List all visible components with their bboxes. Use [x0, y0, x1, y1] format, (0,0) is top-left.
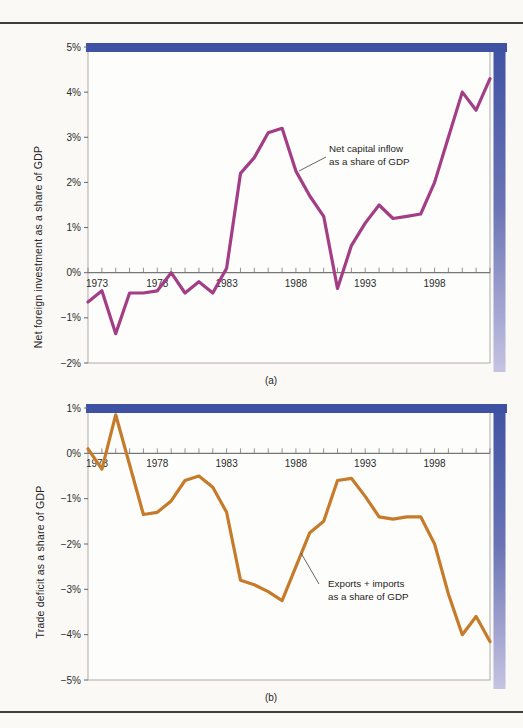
chart-a: 5%4%3%2%1%0%−1%−2%1973197819831988199319…	[61, 42, 507, 373]
chart-b: 1%0%−1%−2%−3%−4%−5%197319781983198819931…	[61, 403, 507, 690]
chart-a-caption: (a)	[265, 375, 277, 386]
chart-a-annotation-line2: as a share of GDP	[329, 156, 410, 169]
chart-b-caption: (b)	[265, 692, 277, 703]
chart-b-xtick-label: 1983	[215, 458, 238, 469]
chart-a-ytick-label: 4%	[67, 87, 82, 98]
chart-b-xtick-label: 1988	[285, 458, 308, 469]
chart-a-plot-area	[88, 47, 490, 363]
chart-b-shadow-band-top	[86, 404, 507, 413]
chart-a-xtick-label: 1993	[354, 278, 377, 289]
chart-a-ytick-label: 1%	[67, 222, 82, 233]
textbook-figure-page: 5%4%3%2%1%0%−1%−2%1973197819831988199319…	[0, 0, 523, 728]
chart-a-xtick-label: 1973	[86, 278, 109, 289]
chart-b-ytick-label: 0%	[67, 448, 82, 459]
chart-a-ytick-label: 0%	[67, 267, 82, 278]
chart-b-shadow-band-right	[494, 404, 506, 689]
chart-a-ytick-label: −1%	[61, 312, 81, 323]
chart-a-ytick-label: −2%	[61, 358, 81, 369]
chart-b-ytick-label: −1%	[61, 493, 81, 504]
chart-b-y-axis-title: Trade deficit as a share of GDP	[34, 486, 46, 639]
chart-a-shadow-band-right	[494, 43, 506, 372]
chart-b-plot-area	[88, 408, 490, 680]
chart-a-ytick-label: 5%	[67, 42, 82, 53]
chart-b-annotation-line1: Exports + imports	[328, 578, 409, 591]
chart-b-ytick-label: −2%	[61, 539, 81, 550]
chart-b-xtick-label: 1993	[354, 458, 377, 469]
chart-a-annotation-line1: Net capital inflow	[329, 143, 410, 156]
chart-b-ytick-label: −4%	[61, 629, 81, 640]
chart-a-ytick-label: 2%	[67, 177, 82, 188]
chart-b-xtick-label: 1978	[146, 458, 169, 469]
chart-b-annotation-line2: as a share of GDP	[328, 591, 409, 604]
chart-b-ytick-label: −3%	[61, 584, 81, 595]
chart-a-annotation: Net capital inflow as a share of GDP	[329, 143, 410, 168]
chart-b-xtick-label: 1998	[423, 458, 446, 469]
chart-b-annotation: Exports + imports as a share of GDP	[328, 578, 409, 603]
chart-a-shadow-band-top	[86, 43, 507, 52]
chart-a-xtick-label: 1988	[285, 278, 308, 289]
chart-a-y-axis-title: Net foreign investment as a share of GDP	[32, 146, 44, 348]
chart-a-xtick-label: 1998	[423, 278, 446, 289]
chart-b-ytick-label: −5%	[61, 675, 81, 686]
chart-b-ytick-label: 1%	[67, 403, 82, 414]
figure-canvas: 5%4%3%2%1%0%−1%−2%1973197819831988199319…	[0, 0, 523, 728]
chart-a-ytick-label: 3%	[67, 132, 82, 143]
